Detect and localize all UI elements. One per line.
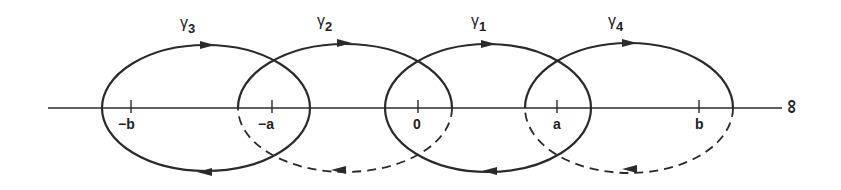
label-gamma-2: γ2 — [317, 12, 332, 34]
arrow-right-icon — [337, 39, 352, 47]
gamma-symbol: γ — [471, 12, 479, 29]
tick-label-neg-a: −a — [258, 116, 274, 132]
arrow-left-icon — [331, 166, 346, 174]
label-gamma-1: γ1 — [471, 12, 486, 34]
label-gamma-3: γ3 — [180, 14, 195, 36]
label-gamma-4: γ4 — [608, 12, 623, 34]
gamma-index: 3 — [188, 21, 195, 36]
gamma-index: 2 — [325, 19, 332, 34]
infinity-label: ∞ — [781, 99, 804, 113]
arrow-left-icon — [482, 167, 497, 175]
gamma-symbol: γ — [608, 12, 616, 29]
arrow-right-icon — [200, 41, 215, 49]
arrow-right-icon — [481, 40, 496, 48]
contour-diagram — [0, 0, 841, 190]
arrow-left-icon — [622, 165, 637, 173]
gamma-index: 1 — [479, 19, 486, 34]
gamma-symbol: γ — [180, 14, 188, 31]
arrow-right-icon — [622, 39, 637, 47]
tick-label-zero: 0 — [413, 116, 421, 132]
tick-label-b: b — [695, 116, 704, 132]
arrow-left-icon — [197, 168, 212, 176]
gamma-index: 4 — [616, 19, 623, 34]
axis-ticks — [131, 100, 699, 113]
tick-label-neg-b: −b — [118, 116, 135, 132]
gamma-symbol: γ — [317, 12, 325, 29]
tick-label-a: a — [553, 116, 561, 132]
